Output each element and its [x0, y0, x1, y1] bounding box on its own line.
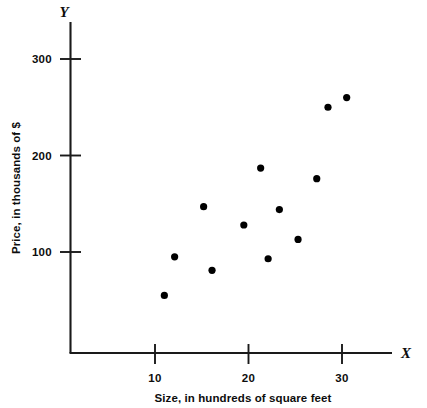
data-point	[208, 267, 215, 274]
data-point	[265, 255, 272, 262]
data-point	[343, 94, 350, 101]
scatter-plot-figure: 300 200 100 10 20 30 Y X Price, in thous…	[0, 0, 427, 408]
data-point	[294, 236, 301, 243]
data-point	[171, 253, 178, 260]
x-axis-letter: X	[400, 345, 412, 361]
y-tick-label-100: 100	[32, 246, 52, 258]
x-tick-label-30: 30	[335, 372, 348, 384]
data-point	[161, 292, 168, 299]
plot-canvas: 300 200 100 10 20 30 Y X Price, in thous…	[0, 0, 427, 408]
data-point	[324, 104, 331, 111]
y-axis-letter: Y	[59, 4, 70, 20]
data-point	[240, 221, 247, 228]
x-tick-label-20: 20	[242, 372, 255, 384]
y-tick-label-300: 300	[32, 53, 52, 65]
x-tick-label-10: 10	[148, 372, 161, 384]
data-point	[276, 206, 283, 213]
data-points-layer	[161, 94, 351, 299]
data-point	[200, 203, 207, 210]
data-point	[313, 175, 320, 182]
y-tick-label-200: 200	[32, 150, 52, 162]
x-axis-title: Size, in hundreds of square feet	[154, 392, 331, 404]
data-point	[257, 164, 264, 171]
y-axis-title: Price, in thousands of $	[10, 121, 22, 254]
